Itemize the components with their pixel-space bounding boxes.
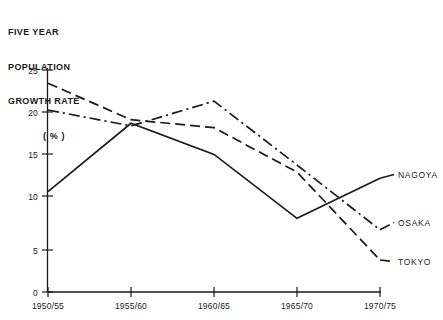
series-line-tokyo xyxy=(48,83,380,260)
chart-plot-area: 25 20 15 10 5 0 1950/55 1955/60 1960/65 … xyxy=(0,0,443,320)
x-tick-label-1970-75: 1970/75 xyxy=(364,301,396,311)
x-axis: 1950/55 1955/60 1960/65 1965/70 1970/75 xyxy=(32,287,396,311)
x-tick-label-1965-70: 1965/70 xyxy=(281,301,313,311)
y-tick-label-10: 10 xyxy=(28,192,38,202)
series-label-nagoya: NAGOYA xyxy=(398,170,438,180)
series-line-nagoya xyxy=(48,123,380,218)
y-tick-label-15: 15 xyxy=(28,150,38,160)
y-axis: 25 20 15 10 5 0 xyxy=(28,66,53,298)
x-tick-label-1955-60: 1955/60 xyxy=(115,301,147,311)
leader-line-tokyo xyxy=(380,260,394,262)
leader-line-nagoya xyxy=(380,175,394,179)
y-tick-label-25: 25 xyxy=(28,66,38,76)
chart-container: FIVE YEAR POPULATION GROWTH RATE ( % ) 2… xyxy=(0,0,443,320)
chart-legend: NAGOYA OSAKA TOKYO xyxy=(398,170,438,267)
x-tick-label-1950-55: 1950/55 xyxy=(32,301,64,311)
series-leaders xyxy=(380,175,394,262)
y-tick-label-0: 0 xyxy=(33,288,38,298)
x-tick-label-1960-65: 1960/65 xyxy=(198,301,230,311)
y-tick-label-5: 5 xyxy=(33,246,38,256)
series-label-tokyo: TOKYO xyxy=(398,257,431,267)
y-tick-label-20: 20 xyxy=(28,108,38,118)
series-lines xyxy=(48,83,380,260)
leader-line-osaka xyxy=(380,223,394,230)
series-line-osaka xyxy=(48,101,380,230)
series-label-osaka: OSAKA xyxy=(398,218,431,228)
